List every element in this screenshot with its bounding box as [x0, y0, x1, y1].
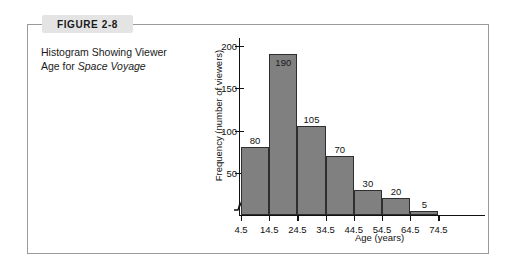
- x-axis-tick: [438, 215, 439, 221]
- x-axis-tick: [269, 215, 270, 221]
- histogram-bar: [382, 198, 410, 215]
- x-axis-tick: [354, 215, 355, 221]
- x-axis-tick: [382, 215, 383, 221]
- histogram-bar: [354, 190, 382, 215]
- x-axis-tick-label: 74.5: [429, 224, 448, 235]
- bar-value-label: 30: [363, 178, 374, 189]
- figure-caption-line-1: Histogram Showing Viewer: [41, 46, 167, 58]
- figure-number-label: FIGURE 2-8: [57, 19, 118, 30]
- x-axis-tick-label: 34.5: [316, 224, 335, 235]
- figure-caption: Histogram Showing Viewer Age for Space V…: [41, 45, 206, 73]
- y-axis-tick-label: 100: [221, 125, 237, 136]
- figure-header-rule-left: [27, 24, 42, 25]
- x-axis-tick-label: 14.5: [260, 224, 279, 235]
- y-axis-title: Frequency (number of viewers): [213, 41, 224, 191]
- figure-caption-line-2-prefix: Age for: [41, 60, 78, 72]
- x-axis-tick: [326, 215, 327, 221]
- bar-value-label: 190: [275, 57, 291, 68]
- x-axis-line: [239, 215, 485, 216]
- figure-frame-left-border: [27, 24, 28, 254]
- histogram-bar: [297, 126, 325, 215]
- figure-caption-movie-title: Space Voyage: [78, 60, 146, 72]
- figure-header-rule-right: [133, 24, 489, 25]
- histogram-bar: [269, 54, 297, 215]
- y-axis-tick-label: 200: [221, 41, 237, 52]
- histogram-bar: [241, 147, 269, 215]
- x-axis-tick-label: 64.5: [401, 224, 420, 235]
- bar-value-label: 105: [304, 114, 320, 125]
- bar-value-label: 5: [422, 199, 427, 210]
- x-axis-tick-label: 44.5: [345, 224, 364, 235]
- x-axis-tick-label: 24.5: [288, 224, 307, 235]
- y-axis-tick-label: 50: [226, 167, 237, 178]
- x-axis-tick-label: 54.5: [373, 224, 392, 235]
- x-axis-tick: [410, 215, 411, 221]
- x-axis-tick: [241, 215, 242, 221]
- y-axis-tick-label: 150: [221, 83, 237, 94]
- bar-value-label: 20: [391, 186, 402, 197]
- plot-area: 50100150200 4.514.524.534.544.554.564.57…: [239, 38, 479, 216]
- figure-frame-bottom-border: [27, 253, 489, 254]
- x-axis-tick: [297, 215, 298, 221]
- histogram-chart: Frequency (number of viewers) Age (years…: [205, 36, 489, 251]
- figure-container: FIGURE 2-8 Histogram Showing Viewer Age …: [0, 0, 513, 277]
- bar-value-label: 70: [334, 144, 345, 155]
- figure-number-badge: FIGURE 2-8: [42, 15, 133, 33]
- histogram-bar: [326, 156, 354, 215]
- x-axis-tick-label: 4.5: [234, 224, 247, 235]
- bar-value-label: 80: [250, 135, 261, 146]
- histogram-bar: [410, 211, 438, 215]
